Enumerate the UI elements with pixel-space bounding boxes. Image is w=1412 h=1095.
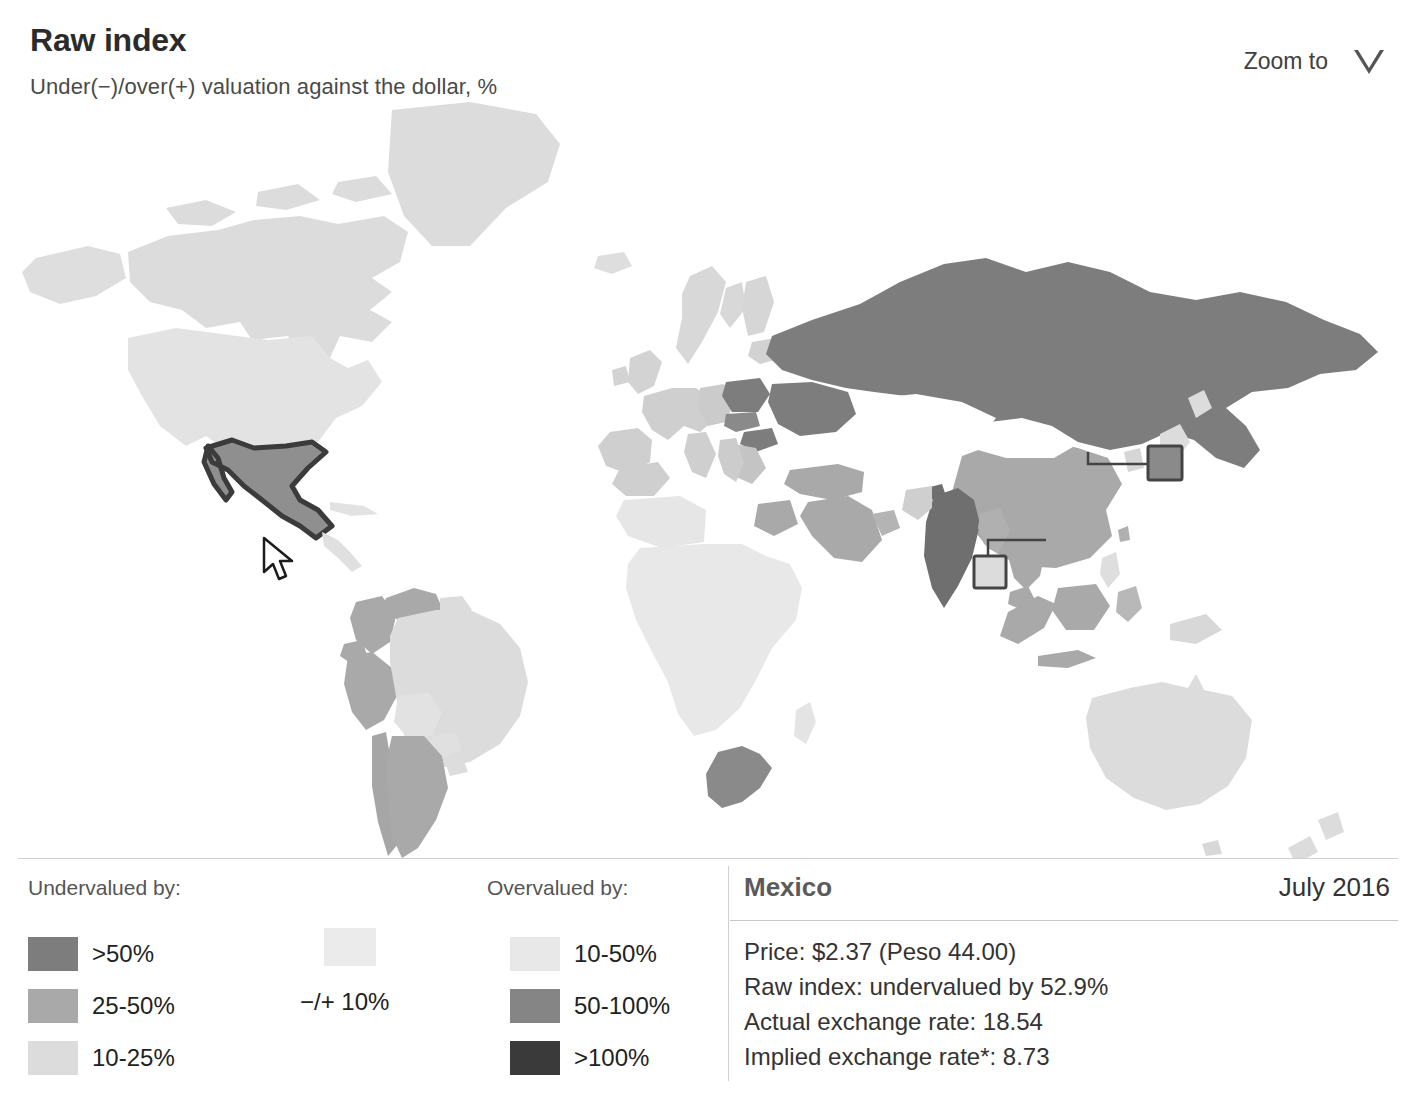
region-morocco-algeria[interactable] xyxy=(616,496,706,548)
region-greenland[interactable] xyxy=(388,102,560,246)
page-subtitle: Under(−)/over(+) valuation against the d… xyxy=(30,74,497,100)
region-africa-main[interactable] xyxy=(626,544,802,736)
region-korea[interactable] xyxy=(1124,448,1144,472)
region-south-africa[interactable] xyxy=(706,746,772,808)
info-detail-lines: Price: $2.37 (Peso 44.00) Raw index: und… xyxy=(744,934,1108,1074)
legend-swatch-over-10-50 xyxy=(510,937,560,971)
legend-label-under-25-50: 25-50% xyxy=(92,992,175,1020)
region-australia[interactable] xyxy=(1086,674,1252,810)
legend-overvalued-heading: Overvalued by: xyxy=(487,876,628,900)
section-divider xyxy=(18,858,1398,859)
region-indonesia-borneo[interactable] xyxy=(1052,584,1110,630)
legend-swatch-under-50plus xyxy=(28,937,78,971)
region-scandinavia[interactable] xyxy=(676,266,746,364)
zoom-to-dropdown[interactable]: Zoom to xyxy=(1244,48,1384,75)
world-choropleth-map[interactable] xyxy=(0,96,1412,858)
region-egypt[interactable] xyxy=(754,500,798,536)
legend-label-under-10-25: 10-25% xyxy=(92,1044,175,1072)
panel-horizontal-divider xyxy=(730,920,1398,921)
region-new-zealand[interactable] xyxy=(1288,812,1344,858)
legend-swatch-over-100plus xyxy=(510,1041,560,1075)
triangle-down-icon[interactable] xyxy=(1354,50,1384,74)
legend-label-over-10-50: 10-50% xyxy=(574,940,657,968)
region-saudi-arabia[interactable] xyxy=(800,496,882,562)
region-poland[interactable] xyxy=(722,378,770,412)
map-svg[interactable] xyxy=(0,96,1412,858)
region-ukraine[interactable] xyxy=(768,382,856,436)
legend-item-over-10-50[interactable]: 10-50% xyxy=(510,928,670,980)
legend-undervalued-column: >50% 25-50% 10-25% xyxy=(28,928,175,1084)
region-russia[interactable] xyxy=(766,258,1378,468)
region-uk-ireland[interactable] xyxy=(612,350,662,394)
legend-undervalued-heading: Undervalued by: xyxy=(28,876,181,900)
info-line-actual-rate: Actual exchange rate: 18.54 xyxy=(744,1004,1108,1039)
region-alaska[interactable] xyxy=(22,246,126,304)
region-png[interactable] xyxy=(1170,614,1222,644)
legend-swatch-under-25-50 xyxy=(28,989,78,1023)
legend-swatch-under-10-25 xyxy=(28,1041,78,1075)
legend-item-over-50-100[interactable]: 50-100% xyxy=(510,980,670,1032)
zoom-to-label: Zoom to xyxy=(1244,48,1328,75)
legend-label-under-50plus: >50% xyxy=(92,940,154,968)
region-pakistan[interactable] xyxy=(902,486,932,520)
region-cuba[interactable] xyxy=(330,502,378,516)
legend-overvalued-column: 10-50% 50-100% >100% xyxy=(510,928,670,1084)
legend-neutral-item[interactable]: −/+ 10% xyxy=(300,928,480,1016)
info-line-raw-index: Raw index: undervalued by 52.9% xyxy=(744,969,1108,1004)
legend-item-under-50plus[interactable]: >50% xyxy=(28,928,175,980)
region-peru[interactable] xyxy=(344,652,398,730)
region-madagascar[interactable] xyxy=(794,702,816,744)
legend-swatch-over-50-100 xyxy=(510,989,560,1023)
info-line-implied-rate: Implied exchange rate*: 8.73 xyxy=(744,1039,1108,1074)
region-indonesia-sulawesi[interactable] xyxy=(1116,586,1142,622)
legend-item-under-10-25[interactable]: 10-25% xyxy=(28,1032,175,1084)
region-tasmania[interactable] xyxy=(1202,840,1222,856)
region-turkey[interactable] xyxy=(784,464,864,500)
region-india[interactable] xyxy=(924,484,980,608)
legend-label-over-100plus: >100% xyxy=(574,1044,649,1072)
widget-header: Raw index Under(−)/over(+) valuation aga… xyxy=(0,0,1412,110)
legend-item-over-100plus[interactable]: >100% xyxy=(510,1032,670,1084)
country-info-panel: Mexico July 2016 Price: $2.37 (Peso 44.0… xyxy=(716,866,1412,1095)
region-finland[interactable] xyxy=(742,276,774,336)
region-argentina[interactable] xyxy=(386,736,448,858)
region-united-states[interactable] xyxy=(128,328,382,454)
region-indonesia-java[interactable] xyxy=(1038,650,1096,668)
legend-label-over-50-100: 50-100% xyxy=(574,992,670,1020)
info-line-price: Price: $2.37 (Peso 44.00) xyxy=(744,934,1108,969)
map-legend: Undervalued by: Overvalued by: >50% 25-5… xyxy=(0,866,716,1095)
region-taiwan[interactable] xyxy=(1118,526,1130,542)
region-iceland[interactable] xyxy=(594,252,632,274)
page-title: Raw index xyxy=(30,22,186,59)
legend-item-under-25-50[interactable]: 25-50% xyxy=(28,980,175,1032)
region-philippines[interactable] xyxy=(1100,552,1120,588)
legend-label-neutral: −/+ 10% xyxy=(300,988,480,1016)
region-czech-slovakia[interactable] xyxy=(724,412,760,432)
region-central-america[interactable] xyxy=(322,532,362,572)
info-date: July 2016 xyxy=(1279,872,1390,903)
panel-vertical-divider xyxy=(728,866,729,1081)
legend-swatch-neutral xyxy=(324,928,376,966)
region-mexico[interactable] xyxy=(204,440,332,538)
info-panel-header: Mexico July 2016 xyxy=(744,872,1390,903)
big-mac-index-map-widget: Raw index Under(−)/over(+) valuation aga… xyxy=(0,0,1412,1095)
info-country-name: Mexico xyxy=(744,872,832,903)
